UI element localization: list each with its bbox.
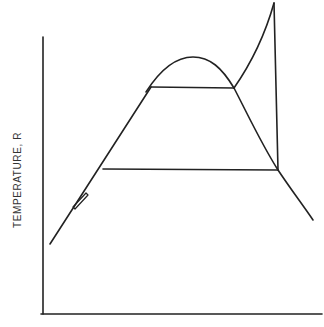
- lower-horizontal-line: [103, 169, 278, 170]
- vertical-expansion-line: [274, 3, 278, 170]
- ts-diagram: [0, 0, 324, 327]
- superheat-curve: [234, 3, 274, 88]
- left-rising-line: [50, 87, 151, 244]
- right-descending-line: [234, 88, 313, 220]
- upper-horizontal-line: [151, 87, 234, 88]
